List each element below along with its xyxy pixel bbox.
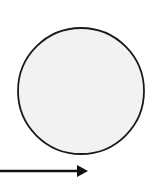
circle-shape	[18, 28, 144, 154]
arrow-head	[77, 165, 88, 177]
arrow-right-icon	[0, 165, 88, 177]
diagram-canvas	[0, 0, 151, 186]
